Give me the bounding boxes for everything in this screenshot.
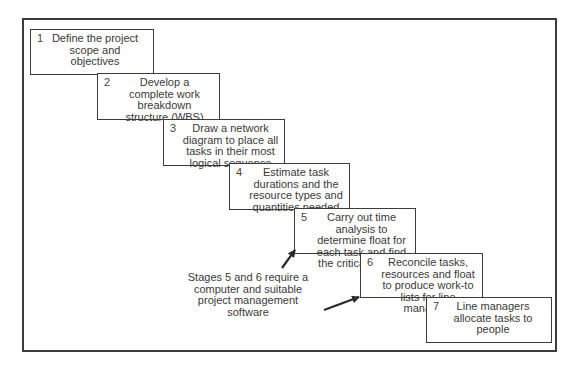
arrow-to-step-5 (282, 250, 295, 268)
annotation-arrows (0, 0, 579, 372)
arrow-to-step-6 (324, 297, 359, 310)
